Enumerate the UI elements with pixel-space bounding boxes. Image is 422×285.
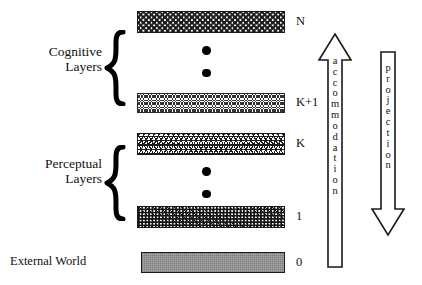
ellipsis-dot — [202, 69, 211, 78]
group-label-perceptual: Perceptual Layers — [12, 156, 102, 186]
arrow-letter: d — [318, 132, 352, 143]
cognitive-ellipsis — [202, 46, 211, 77]
external-world-label: External World — [10, 254, 86, 269]
brace-perceptual — [104, 145, 126, 221]
arrow-letter: n — [371, 160, 405, 171]
layer-index-N: N — [296, 14, 305, 29]
ellipsis-dot — [202, 167, 211, 176]
arrow-letter: i — [371, 139, 405, 150]
projection-arrow-label: p r o j e c t i o n — [371, 63, 405, 171]
arrow-letter: c — [318, 67, 352, 78]
layer-index-0: 0 — [296, 255, 302, 270]
perceptual-ellipsis — [202, 167, 211, 198]
layer-index-K-plus-1: K+1 — [296, 95, 318, 110]
layer-bar-0-external-world — [141, 252, 285, 273]
layer-bar-1 — [137, 206, 285, 228]
group-label-perceptual-line1: Perceptual — [45, 156, 102, 171]
accommodation-arrow: a c c o m m o d a t i o n — [318, 32, 352, 269]
group-label-cognitive-line1: Cognitive — [49, 44, 102, 59]
layered-architecture-diagram: Cognitive Layers Perceptual Layers Exter… — [0, 0, 422, 285]
group-label-cognitive-line2: Layers — [18, 59, 102, 74]
layer-index-1: 1 — [296, 209, 302, 224]
accommodation-arrow-label: a c c o m m o d a t i o n — [318, 56, 352, 197]
layer-bar-K — [137, 133, 285, 155]
layer-index-K: K — [296, 136, 305, 151]
group-label-perceptual-line2: Layers — [12, 171, 102, 186]
group-label-cognitive: Cognitive Layers — [18, 44, 102, 74]
brace-cognitive — [104, 30, 126, 106]
ellipsis-dot — [202, 46, 211, 55]
arrow-letter: n — [318, 186, 352, 197]
layer-bar-N — [137, 11, 285, 33]
projection-arrow: p r o j e c t i o n — [371, 51, 405, 237]
layer-bar-K-plus-1 — [137, 93, 285, 113]
ellipsis-dot — [202, 190, 211, 199]
arrow-letter: r — [371, 74, 405, 85]
